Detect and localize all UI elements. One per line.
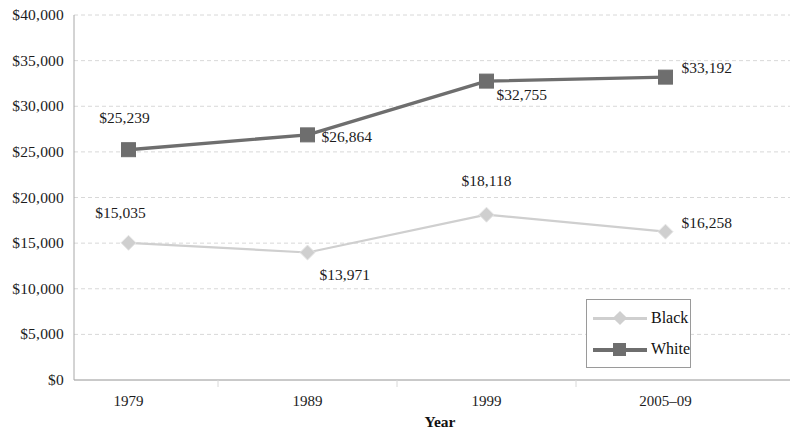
y-axis-tick-label: $5,000 [0, 326, 64, 342]
x-axis-tick-label: 1989 [248, 394, 368, 409]
legend-swatch-white [593, 339, 647, 359]
y-axis-tick-label: $10,000 [0, 281, 64, 297]
y-axis-tick-label: $30,000 [0, 98, 64, 114]
legend-item-white[interactable]: White [593, 338, 690, 360]
series-white-line [129, 77, 666, 150]
legend-label-white: White [647, 341, 690, 357]
data-point-label: $25,239 [65, 110, 185, 126]
data-point-label: $26,864 [322, 129, 372, 145]
y-axis-tick-label: $15,000 [0, 235, 64, 251]
data-point-label: $16,258 [682, 215, 732, 231]
chart-legend: Black White [586, 299, 691, 368]
x-axis-title: Year [340, 414, 540, 430]
x-axis-tick-label: 2005–09 [606, 394, 726, 409]
y-axis-tick-label: $40,000 [0, 7, 64, 23]
legend-item-black[interactable]: Black [593, 307, 688, 329]
legend-swatch-black [593, 308, 647, 328]
data-point-label: $13,971 [320, 267, 370, 283]
x-axis-tick-label: 1979 [69, 394, 189, 409]
y-axis-tick-label: $25,000 [0, 144, 64, 160]
data-point-label: $15,035 [61, 205, 181, 221]
data-point-label: $18,118 [427, 173, 547, 189]
data-point-label: $32,755 [497, 87, 547, 103]
x-axis-line [74, 380, 790, 387]
legend-label-black: Black [647, 310, 688, 326]
income-by-race-line-chart: $40,000$35,000$30,000$25,000$20,000$15,0… [0, 0, 790, 439]
data-point-label: $33,192 [682, 60, 732, 76]
x-axis-tick-label: 1999 [427, 394, 547, 409]
y-axis-tick-label: $0 [0, 372, 64, 388]
y-axis-tick-label: $20,000 [0, 190, 64, 206]
y-axis-tick-label: $35,000 [0, 53, 64, 69]
series-black-line [129, 215, 666, 253]
